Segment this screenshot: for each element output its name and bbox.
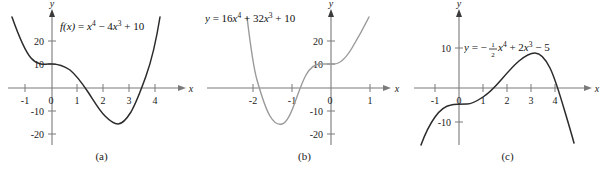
x-ticklabel-a-3: 2 [101, 95, 106, 106]
svg-text:f(x) = x4 − 4x3 + 10: f(x) = x4 − 4x3 + 10 [60, 19, 145, 33]
equation-label-a: f(x) = x4 − 4x3 + 10 [60, 16, 200, 36]
y-axis-arrow-c [456, 9, 462, 17]
y-ticklabel-b-0: 20 [313, 36, 323, 47]
caption-a: (a) [0, 150, 203, 162]
x-ticklabel-b-0: -2 [249, 95, 257, 106]
eq-c-frac-denominator: 2 [491, 51, 495, 58]
x-ticklabel-a-2: 1 [75, 95, 80, 106]
x-ticklabel-b-2: 0 [328, 95, 333, 106]
curve-b [247, 17, 369, 124]
x-axis-label-a: x [188, 83, 194, 94]
x-axis-label-c: x [594, 83, 600, 94]
x-ticklabel-a-5: 4 [153, 95, 158, 106]
eq-c-t3: 5 [544, 41, 550, 53]
panel-a: -1 0 1 2 3 4 20 10 -10 -20 x y (a) f(x) … [0, 0, 203, 179]
x-ticklabel-c-4: 3 [529, 95, 534, 106]
y-ticklabel-a-0: 20 [34, 36, 44, 47]
eq-b-t1-coef: 16 [222, 12, 234, 24]
equation-label-b: y = 16x4 + 32x3 + 10 [205, 8, 345, 28]
x-axis-arrow-b [383, 85, 391, 91]
equation-label-c: y = − 1 2 x4 + 2x3 − 5 [464, 36, 594, 58]
caption-c: (c) [406, 150, 609, 162]
x-ticklabel-a-0: -1 [21, 95, 29, 106]
eq-c-frac-numerator: 1 [491, 41, 495, 49]
svg-text:y = 16x4 + 32x3 + 10: y = 16x4 + 32x3 + 10 [205, 11, 296, 24]
y-ticklabel-c-1: -10 [438, 117, 451, 128]
y-axis-label-c: y [456, 0, 462, 9]
x-ticklabel-a-1: 0 [49, 95, 54, 106]
eq-b-t3: 10 [284, 12, 296, 24]
y-ticklabel-b-3: -20 [310, 129, 323, 140]
y-ticklabel-b-2: -10 [310, 106, 323, 117]
x-ticklabel-a-4: 3 [127, 95, 132, 106]
svg-text:x4 + 2x3 − 5: x4 + 2x3 − 5 [497, 40, 550, 53]
eq-c-neg: − [481, 41, 487, 53]
x-ticklabel-c-0: -1 [431, 95, 439, 106]
graph-c: -1 0 1 2 3 4 10 -10 x y [406, 0, 609, 150]
x-ticklabel-b-3: 1 [368, 95, 373, 106]
x-axis-arrow-a [178, 85, 186, 91]
figure-three-quartic-graphs: -1 0 1 2 3 4 20 10 -10 -20 x y (a) f(x) … [0, 0, 609, 179]
y-ticklabel-a-3: -20 [31, 129, 44, 140]
eq-a-t3: 10 [133, 20, 145, 32]
y-ticklabel-a-2: -10 [31, 106, 44, 117]
x-axis-arrow-c [584, 85, 592, 91]
y-ticklabel-c-0: 10 [441, 43, 451, 54]
x-ticklabel-c-3: 2 [505, 95, 510, 106]
curve-c [421, 53, 574, 145]
y-axis-arrow-a [49, 9, 55, 17]
eq-b-t2-coef: 32 [253, 12, 264, 24]
x-axis-label-b: x [394, 83, 400, 94]
caption-b: (b) [203, 150, 406, 162]
x-ticklabel-c-5: 4 [553, 95, 558, 106]
panel-c: -1 0 1 2 3 4 10 -10 x y (c) y = − 1 2 [406, 0, 609, 179]
svg-text:y = −: y = − [464, 41, 487, 53]
panel-b: -2 -1 0 1 20 10 -10 -20 x y (b) y = 16x4… [203, 0, 406, 179]
y-axis-label-a: y [49, 0, 55, 9]
eq-a-lhs: f(x) [60, 20, 76, 33]
